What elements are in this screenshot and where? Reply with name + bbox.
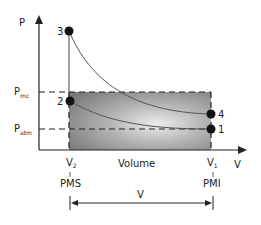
arrow-right-icon: [205, 200, 212, 206]
p-atm-label: Patm: [14, 123, 32, 136]
v2-label: V2: [66, 157, 77, 169]
point-4-icon: [207, 110, 216, 119]
point-2-label: 2: [57, 96, 63, 107]
y-axis-label: P: [19, 17, 25, 28]
pv-diagram: 3 2 4 1 P V Volume Pmc Patm V2 V1 PMS PM…: [0, 0, 261, 225]
point-3-label: 3: [57, 26, 63, 37]
displacement-label: V: [137, 189, 144, 200]
pmi-label: PMI: [203, 178, 221, 189]
point-1-label: 1: [218, 124, 224, 135]
point-3-icon: [65, 27, 74, 36]
arrow-left-icon: [71, 200, 78, 206]
y-axis-arrow-icon: [35, 15, 43, 24]
point-1-icon: [207, 125, 216, 134]
shaded-region: [69, 92, 211, 150]
v1-label: V1: [207, 157, 218, 169]
x-axis-label: V: [234, 159, 241, 170]
x-axis-arrow-icon: [238, 146, 247, 154]
point-4-label: 4: [218, 109, 224, 120]
point-2-icon: [66, 97, 75, 106]
x-axis-title: Volume: [118, 158, 155, 169]
pms-label: PMS: [60, 178, 81, 189]
p-mc-label: Pmc: [14, 86, 29, 99]
